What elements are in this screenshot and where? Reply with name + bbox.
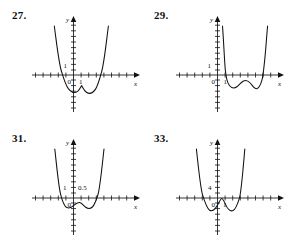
origin-label-31: 0 [68,201,72,209]
y-axis-arrowhead [215,16,221,22]
figure-panel-33: 33. [146,122,291,244]
origin-label-33: 0 [212,201,216,209]
x-tick-label-29: 1 [224,78,228,86]
figure-grid: 27. [0,0,291,244]
curve-29 [223,26,268,89]
x-axis-arrowhead [134,72,140,78]
graph-31: 1 0 0.5 x y [30,137,142,239]
x-axis-arrowhead [278,195,284,201]
x-axis-label-29: x [277,80,282,88]
x-tick-label-33: 1 [223,201,227,209]
x-axis-arrowhead [278,72,284,78]
y-axis-arrowhead [71,16,77,22]
y-axis-label-27: y [65,16,70,24]
x-axis-label-27: x [133,80,138,88]
curve-31 [55,149,104,208]
y-axis-label-33: y [209,139,214,147]
x-tick-label-31: 0.5 [78,184,87,192]
problem-number-27: 27. [12,9,26,21]
x-axis-arrowhead [134,195,140,201]
y-axis-label-31: y [65,139,70,147]
graph-27: 1 0 1 x y [30,14,142,116]
problem-number-29: 29. [154,9,168,21]
y-axis-arrowhead [215,139,221,145]
x-axis-label-31: x [133,203,138,211]
y-axis-label-29: y [209,16,214,24]
problem-number-33: 33. [154,132,168,144]
y-tick-label-27: 1 [64,62,68,70]
curve-33 [196,149,244,211]
problem-number-31: 31. [12,132,26,144]
y-tick-label-31: 1 [63,184,67,192]
graph-33: 4 0 1 x y [174,137,286,239]
x-axis-label-33: x [277,203,282,211]
origin-label-27: 0 [68,78,72,86]
figure-panel-31: 31. [0,122,146,244]
y-axis-arrowhead [71,139,77,145]
figure-panel-29: 29. [146,0,291,122]
x-tick-label-27: 1 [79,78,83,86]
y-tick-label-33: 4 [208,184,212,192]
figure-panel-27: 27. [0,0,146,122]
y-tick-label-29: 1 [208,62,212,70]
graph-29: 1 0 1 x y [174,14,286,116]
origin-label-29: 0 [212,78,216,86]
